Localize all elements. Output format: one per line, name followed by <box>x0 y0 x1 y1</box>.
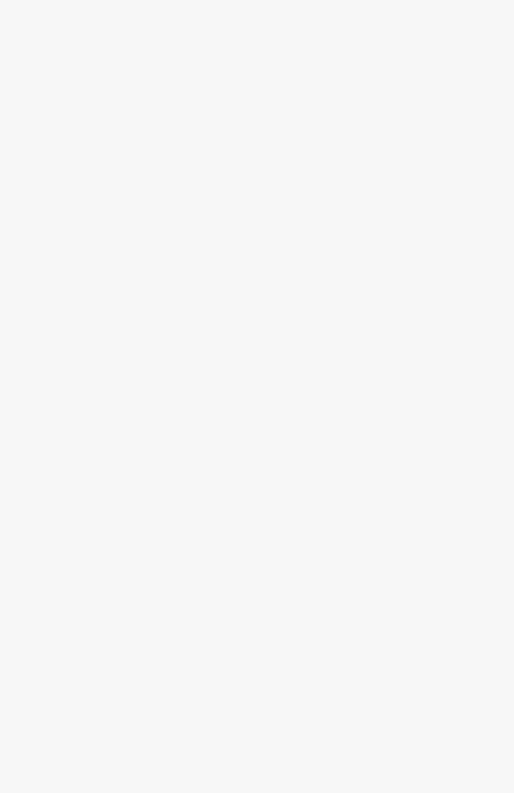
lined-paper-sheet <box>0 0 514 793</box>
